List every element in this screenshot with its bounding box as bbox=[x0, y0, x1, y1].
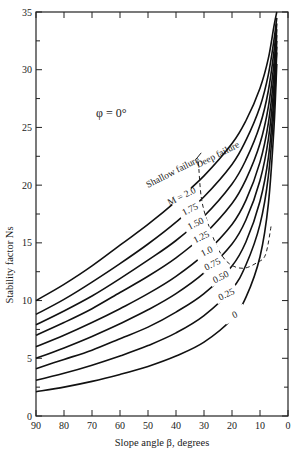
y-tick-label: 30 bbox=[22, 64, 32, 75]
x-tick-label: 50 bbox=[143, 420, 153, 431]
x-tick-label: 90 bbox=[31, 420, 41, 431]
y-tick-label: 15 bbox=[22, 237, 32, 248]
y-tick-label: 25 bbox=[22, 122, 32, 133]
y-tick-label: 20 bbox=[22, 180, 32, 191]
phi-annotation: φ = 0° bbox=[96, 106, 127, 120]
curve-0.50 bbox=[36, 47, 277, 369]
curves bbox=[36, 12, 277, 392]
x-tick-label: 80 bbox=[59, 420, 69, 431]
y-axis-label: Stability factor Ns bbox=[4, 227, 15, 304]
x-tick-label: 40 bbox=[171, 420, 181, 431]
curve-1.75 bbox=[36, 18, 277, 315]
x-tick-label: 60 bbox=[115, 420, 125, 431]
x-tick-label: 10 bbox=[255, 420, 265, 431]
deep-failure-label: Deep failure bbox=[194, 139, 241, 169]
y-tick-label: 5 bbox=[27, 353, 32, 364]
y-tick-label: 35 bbox=[22, 7, 32, 18]
stability-chart: 908070605040302010005101520253035 M = 2.… bbox=[0, 0, 296, 452]
x-tick-label: 0 bbox=[286, 420, 291, 431]
x-tick-label: 30 bbox=[199, 420, 209, 431]
y-tick-label: 10 bbox=[22, 295, 32, 306]
curve-M2.0 bbox=[36, 12, 277, 301]
y-tick-label: 0 bbox=[27, 411, 32, 422]
x-tick-label: 20 bbox=[227, 420, 237, 431]
x-tick-label: 70 bbox=[87, 420, 97, 431]
x-axis-label: Slope angle β, degrees bbox=[115, 437, 210, 448]
curve-labels: M = 2.01.751.501.251.00.750.500.250 bbox=[166, 185, 248, 325]
